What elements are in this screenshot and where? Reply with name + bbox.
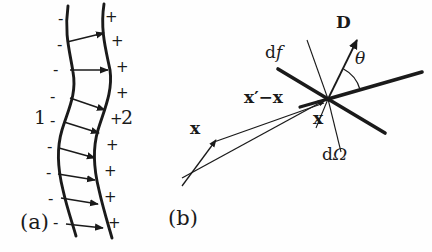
- charge-sign-minus: -: [50, 90, 55, 105]
- charge-sign-minus: -: [53, 63, 58, 78]
- polarization-arrow: [67, 33, 104, 42]
- theta-angle-arc: [344, 69, 361, 90]
- vector-x-source: [182, 140, 216, 186]
- vector-label-x-prime-minus-x: x′−x: [244, 89, 283, 106]
- omega-glyph: Ω: [333, 144, 347, 164]
- charge-sign-plus: +: [116, 60, 129, 75]
- charge-sign-plus: +: [111, 34, 124, 49]
- charge-sign-minus: -: [47, 140, 52, 155]
- charge-sign-plus: +: [116, 86, 129, 101]
- charge-sign-plus: +: [106, 138, 119, 153]
- charge-sign-minus: -: [46, 166, 51, 181]
- charge-sign-plus: +: [104, 190, 117, 205]
- polarization-arrow: [59, 148, 95, 158]
- region-label-1: 1: [34, 108, 46, 127]
- area-element-f-glyph: f: [276, 42, 282, 62]
- panel-b-graphics: [182, 40, 422, 186]
- vector-label-x-source: x: [190, 120, 200, 137]
- charge-sign-minus: -: [57, 38, 62, 53]
- surface-element-line-lower-right: [328, 99, 385, 133]
- polarization-arrow: [58, 174, 95, 180]
- polarization-arrow: [70, 98, 105, 110]
- charge-sign-plus: +: [108, 216, 121, 231]
- polarization-arrow: [64, 122, 99, 133]
- charge-sign-minus: -: [58, 12, 63, 27]
- figure-svg: [0, 0, 432, 252]
- surface-element-label-df: df: [265, 44, 282, 61]
- figure-container: - - - - - - - - - + + + + + + + + + 1 2 …: [0, 0, 432, 252]
- charge-sign-minus: -: [50, 114, 55, 129]
- vector-x-source-continuation: [214, 103, 324, 142]
- charge-sign-minus: -: [48, 192, 53, 207]
- charge-sign-minus: -: [53, 216, 58, 231]
- region-label-2: 2: [121, 108, 133, 127]
- charge-sign-plus: +: [105, 10, 118, 25]
- vector-label-x-at-vertex: x: [313, 110, 323, 127]
- panel-tag-b: (b): [168, 208, 198, 229]
- panel-tag-a: (a): [20, 212, 49, 233]
- scattered-ray-right: [328, 72, 422, 99]
- charge-sign-plus: +: [104, 164, 117, 179]
- vector-label-D: D: [336, 14, 351, 31]
- solid-angle-label-domega: dΩ: [322, 146, 347, 163]
- differential-d-glyph: d: [265, 42, 276, 62]
- vector-x-prime-minus-x: [182, 100, 325, 178]
- surface-element-line-df: [278, 69, 328, 99]
- differential-d-glyph: d: [322, 144, 333, 164]
- angle-label-theta: θ: [355, 50, 365, 67]
